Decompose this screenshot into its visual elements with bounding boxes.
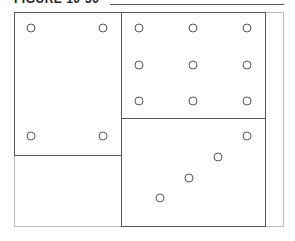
hole-circle-icon [243, 61, 252, 70]
hole-circle-icon [135, 97, 144, 106]
hole-circle-icon [135, 24, 144, 33]
right-panel [121, 12, 266, 227]
hole-circle-icon [185, 174, 194, 183]
hole-circle-icon [214, 153, 223, 162]
hole-circle-icon [243, 24, 252, 33]
hole-circle-icon [189, 24, 198, 33]
right-panel-divider [121, 118, 266, 119]
hole-circle-icon [156, 194, 165, 203]
hole-circle-icon [27, 24, 36, 33]
title-rule [110, 4, 284, 5]
hole-circle-icon [27, 132, 36, 141]
hole-circle-icon [243, 132, 252, 141]
hole-circle-icon [99, 132, 108, 141]
figure-title: FIGURE 10-30 [14, 0, 99, 5]
hole-circle-icon [243, 97, 252, 106]
hole-circle-icon [189, 61, 198, 70]
hole-circle-icon [135, 61, 144, 70]
hole-circle-icon [99, 24, 108, 33]
hole-circle-icon [189, 97, 198, 106]
